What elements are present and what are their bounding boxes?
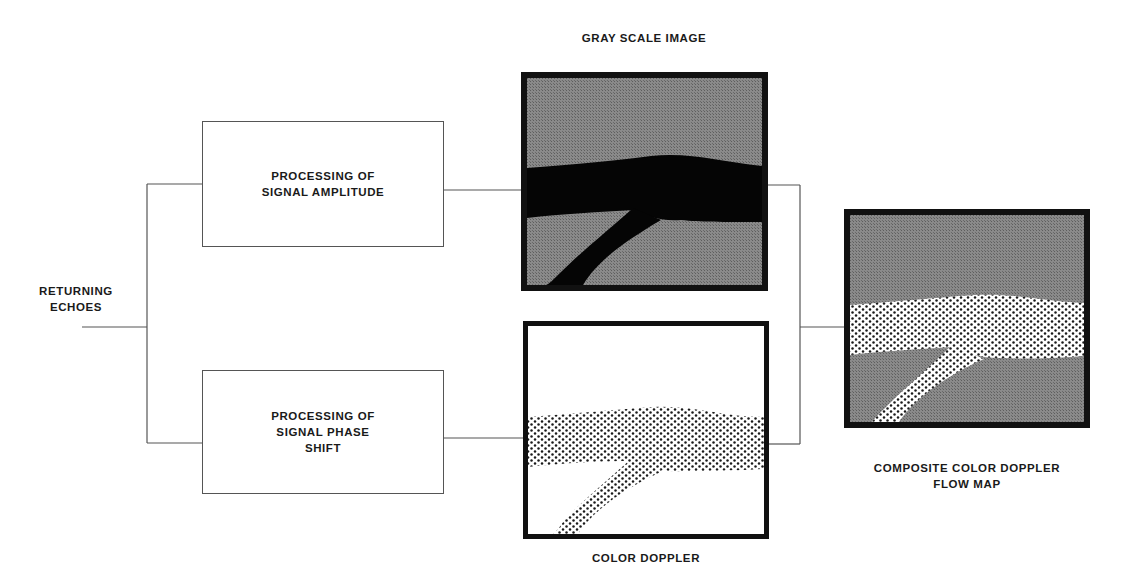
returning-echoes-label: RETURNING ECHOES: [20, 283, 132, 315]
label-line: COMPOSITE COLOR DOPPLER: [830, 460, 1104, 476]
label-line: ECHOES: [20, 299, 132, 315]
label-line: RETURNING: [20, 283, 132, 299]
gray-scale-image-panel: [521, 72, 768, 291]
label-line: PROCESSING OF: [262, 168, 385, 184]
label-line: SIGNAL PHASE: [271, 424, 375, 440]
phase-shift-processing-label: PROCESSING OF SIGNAL PHASE SHIFT: [271, 408, 375, 456]
composite-flow-map-title: COMPOSITE COLOR DOPPLER FLOW MAP: [830, 460, 1104, 492]
label-line: SHIFT: [271, 440, 375, 456]
label-line: SIGNAL AMPLITUDE: [262, 184, 385, 200]
color-doppler-panel: [523, 321, 769, 539]
amplitude-processing-label: PROCESSING OF SIGNAL AMPLITUDE: [262, 168, 385, 200]
gray-scale-image-title: GRAY SCALE IMAGE: [521, 30, 767, 46]
color-doppler-title: COLOR DOPPLER: [523, 550, 769, 566]
label-line: PROCESSING OF: [271, 408, 375, 424]
label-line: FLOW MAP: [830, 476, 1104, 492]
amplitude-processing-box: PROCESSING OF SIGNAL AMPLITUDE: [202, 121, 444, 247]
composite-flow-map-panel: [844, 209, 1090, 428]
phase-shift-processing-box: PROCESSING OF SIGNAL PHASE SHIFT: [202, 370, 444, 494]
